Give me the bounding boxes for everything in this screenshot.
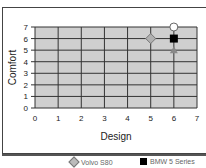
y-tick-label: 3: [24, 69, 29, 78]
circle-marker: [170, 23, 178, 31]
y-axis-label: Comfort: [7, 49, 18, 85]
y-tick-label: 2: [24, 81, 29, 90]
y-tick-label: 4: [24, 58, 29, 67]
legend-item-square: BMW 5 Series: [140, 158, 195, 165]
diamond-marker-icon: [68, 156, 79, 167]
x-tick-label: 7: [195, 114, 200, 123]
scatter-chart: 0123456701234567DesignComfort: [0, 0, 206, 168]
x-tick-label: 5: [148, 114, 153, 123]
x-tick-label: 4: [125, 114, 130, 123]
y-tick-label: 7: [24, 23, 29, 32]
square-marker: [170, 35, 178, 43]
x-tick-label: 1: [56, 114, 61, 123]
x-tick-label: 6: [172, 114, 177, 123]
legend-item-diamond: Volvo S80: [70, 158, 113, 166]
legend-label: Volvo S80: [81, 159, 113, 166]
x-tick-label: 0: [33, 114, 38, 123]
y-tick-label: 1: [24, 92, 29, 101]
x-tick-label: 2: [79, 114, 84, 123]
legend-label: BMW 5 Series: [150, 158, 195, 165]
x-axis-label: Design: [100, 131, 131, 142]
legend: Volvo S80 BMW 5 Series: [0, 158, 206, 168]
y-tick-label: 0: [24, 104, 29, 113]
x-tick-label: 3: [102, 114, 107, 123]
y-tick-label: 6: [24, 35, 29, 44]
square-marker-icon: [140, 158, 147, 165]
y-tick-label: 5: [24, 46, 29, 55]
